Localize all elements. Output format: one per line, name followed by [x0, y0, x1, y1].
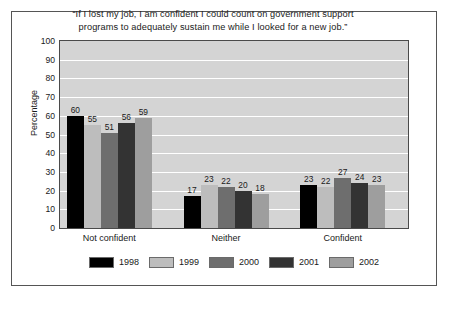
- category-label-not-confident: Not confident: [45, 233, 174, 243]
- legend-item-1998[interactable]: 1998: [89, 257, 139, 268]
- legend-item-2001[interactable]: 2001: [269, 257, 319, 268]
- bar-1999-neither: [201, 185, 218, 228]
- bar-2001-neither: [235, 191, 252, 228]
- gridline: [60, 60, 408, 61]
- y-tick-label: 10: [33, 204, 55, 214]
- y-tick-label: 30: [33, 167, 55, 177]
- legend-item-2000[interactable]: 2000: [209, 257, 259, 268]
- y-tick-label: 40: [33, 148, 55, 158]
- bar-2002-neither: [252, 194, 269, 228]
- bar-value-label: 23: [366, 174, 387, 184]
- chart-legend: 19981999200020012002: [59, 254, 409, 270]
- bar-2002-not-confident: [135, 118, 152, 228]
- y-tick-label: 20: [33, 186, 55, 196]
- bar-value-label: 18: [250, 183, 271, 193]
- chart-title-line-1: “If I lost my job, I am confident I coul…: [18, 8, 408, 21]
- legend-label-2002: 2002: [359, 257, 379, 267]
- legend-swatch-1999: [149, 257, 174, 268]
- bar-2000-neither: [218, 187, 235, 228]
- legend-label-1999: 1999: [179, 257, 199, 267]
- y-axis-tick-labels: 1009080706050403020100: [31, 40, 55, 229]
- y-tick-label: 0: [33, 223, 55, 233]
- bar-value-label: 22: [315, 176, 336, 186]
- gridline: [60, 116, 408, 117]
- bar-value-label: 17: [182, 185, 203, 195]
- y-tick-label: 80: [33, 73, 55, 83]
- legend-swatch-2001: [269, 257, 294, 268]
- legend-label-2000: 2000: [239, 257, 259, 267]
- bar-1999-not-confident: [84, 125, 101, 228]
- y-tick-label: 50: [33, 130, 55, 140]
- legend-item-2002[interactable]: 2002: [329, 257, 379, 268]
- legend-swatch-1998: [89, 257, 114, 268]
- bar-2000-not-confident: [101, 133, 118, 228]
- bar-2002-confident: [368, 185, 385, 228]
- bar-2001-confident: [351, 183, 368, 228]
- category-label-neither: Neither: [162, 233, 291, 243]
- bar-value-label: 59: [133, 107, 154, 117]
- bar-2001-not-confident: [118, 123, 135, 228]
- bar-1998-neither: [184, 196, 201, 228]
- chart-title: “If I lost my job, I am confident I coul…: [18, 8, 408, 33]
- bar-1999-confident: [317, 187, 334, 228]
- legend-item-1999[interactable]: 1999: [149, 257, 199, 268]
- y-tick-label: 60: [33, 111, 55, 121]
- legend-label-2001: 2001: [299, 257, 319, 267]
- y-tick-label: 90: [33, 55, 55, 65]
- legend-swatch-2000: [209, 257, 234, 268]
- bar-2000-confident: [334, 178, 351, 228]
- legend-label-1998: 1998: [119, 257, 139, 267]
- category-label-confident: Confident: [278, 233, 407, 243]
- y-tick-label: 70: [33, 92, 55, 102]
- bar-1998-confident: [300, 185, 317, 228]
- chart-title-line-2: programs to adequately sustain me while …: [18, 21, 408, 34]
- gridline: [60, 97, 408, 98]
- bar-1998-not-confident: [67, 116, 84, 228]
- gridline: [60, 78, 408, 79]
- y-tick-label: 100: [33, 36, 55, 46]
- bar-value-label: 51: [99, 122, 120, 132]
- legend-swatch-2002: [329, 257, 354, 268]
